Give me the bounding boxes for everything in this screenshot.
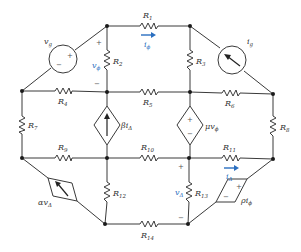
label-r1: R1: [142, 11, 153, 21]
label-r8: R8: [279, 123, 290, 133]
label-r4: R4: [57, 97, 68, 107]
resistor-r8: [270, 116, 276, 136]
vg-plus-sign: +: [67, 52, 73, 60]
resistor-r7: [19, 116, 25, 134]
label-i-phi: iϕ: [144, 40, 151, 51]
resistor-r12: [104, 182, 110, 202]
resistor-r4: [55, 88, 72, 94]
label-alpha-v-delta: αvΔ: [38, 198, 52, 208]
label-v-delta: vΔ: [175, 188, 184, 198]
label-r6: R6: [224, 99, 235, 109]
rho-plus-sign: +: [236, 183, 242, 191]
label-vg: vg: [44, 37, 53, 48]
mu-minus-sign: −: [187, 130, 193, 138]
dependent-current-source-beta: [94, 106, 120, 145]
label-v-phi: vϕ: [92, 61, 101, 72]
label-i-delta: iΔ: [226, 172, 233, 182]
label-r9: R9: [57, 143, 68, 153]
label-r7: R7: [27, 121, 38, 131]
label-rho-i-phi: ρiϕ: [240, 196, 252, 207]
resistor-r11: [222, 155, 240, 161]
dependent-current-source-alpha: [48, 178, 77, 201]
label-ig: ig: [247, 37, 254, 48]
v-delta-plus-sign: +: [178, 163, 184, 171]
label-r12: R12: [112, 189, 127, 199]
vg-minus-sign: −: [56, 61, 62, 69]
resistor-r3: [187, 50, 193, 70]
resistor-r5: [140, 89, 158, 95]
label-r3: R3: [195, 57, 206, 67]
mu-plus-sign: +: [187, 116, 193, 124]
v-delta-minus-sign: −: [178, 214, 184, 222]
resistor-r10: [140, 155, 158, 161]
voltage-source-vg: + −: [49, 45, 77, 73]
resistor-r2: [104, 50, 110, 70]
label-r11: R11: [222, 143, 236, 153]
label-r13: R13: [194, 189, 209, 199]
label-r14: R14: [140, 231, 155, 241]
label-mu-v-phi: μvϕ: [205, 122, 219, 133]
label-r10: R10: [140, 143, 155, 153]
resistor-r6: [222, 90, 240, 96]
resistor-r13: [186, 182, 192, 202]
resistor-r9: [55, 155, 72, 161]
resistor-r14: [140, 221, 158, 227]
rho-minus-sign: −: [223, 193, 229, 201]
resistor-r1: [140, 23, 158, 29]
dependent-voltage-source-mu: + −: [177, 106, 203, 145]
current-source-ig: [218, 46, 246, 74]
label-r5: R5: [142, 98, 153, 108]
v-phi-plus-sign: +: [96, 39, 102, 47]
v-phi-minus-sign: −: [94, 80, 100, 88]
label-beta-i-delta: βiΔ: [120, 121, 132, 131]
label-r2: R2: [112, 57, 123, 67]
circuit-diagram: + − + − + −: [0, 0, 301, 252]
